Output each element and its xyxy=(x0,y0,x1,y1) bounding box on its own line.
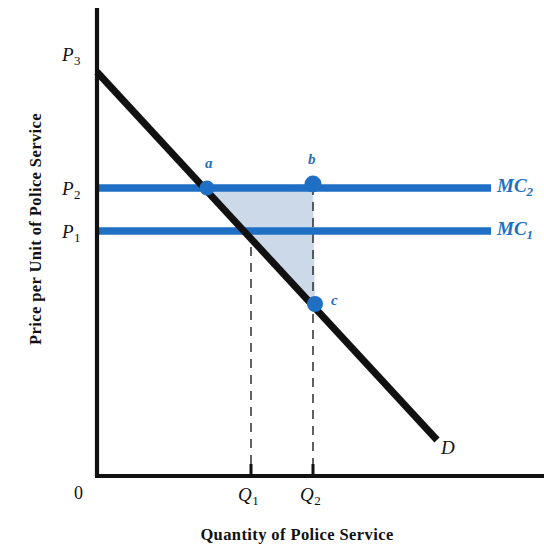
mc2-curve-label: MC2 xyxy=(497,175,533,200)
point-b-marker xyxy=(305,176,322,193)
demand-curve-label: D xyxy=(441,437,455,459)
demand-curve xyxy=(97,72,437,440)
point-a-marker xyxy=(200,181,215,196)
point-b-label: b xyxy=(308,151,316,168)
y-tick-label-p1: P1 xyxy=(62,221,81,246)
y-tick-label-p2: P2 xyxy=(62,178,81,203)
point-a-label: a xyxy=(205,155,213,172)
point-c-marker xyxy=(307,296,323,312)
x-tick-label-q1: Q1 xyxy=(238,484,259,509)
plot-canvas xyxy=(0,0,544,553)
x-tick-label-q2: Q2 xyxy=(300,484,321,509)
point-c-label: c xyxy=(331,292,338,309)
mc1-curve-label: MC1 xyxy=(497,218,533,243)
x-axis-title: Quantity of Police Service xyxy=(97,525,497,545)
origin-label: 0 xyxy=(74,483,83,504)
y-axis-title: Price per Unit of Police Service xyxy=(26,99,46,359)
y-tick-label-p3: P3 xyxy=(62,44,81,69)
economics-diagram: Price per Unit of Police Service Quantit… xyxy=(0,0,544,553)
